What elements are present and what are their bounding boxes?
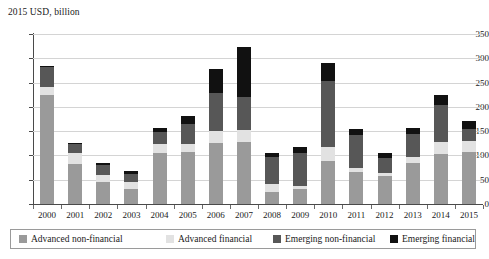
x-axis-tick-mark <box>314 205 315 209</box>
legend-label: Emerging non-financial <box>285 234 375 244</box>
bar-segment <box>378 153 392 158</box>
x-axis-tick-mark <box>371 205 372 209</box>
bar-segment <box>68 143 82 144</box>
plot-area <box>33 34 483 204</box>
legend-label: Emerging financial <box>402 234 475 244</box>
legend-item[interactable]: Emerging non-financial <box>273 234 375 244</box>
x-axis-tick-label: 2013 <box>404 210 422 220</box>
bar-segment <box>349 129 363 135</box>
legend-label: Advanced financial <box>178 234 252 244</box>
bar-segment <box>293 189 307 204</box>
bar-segment <box>378 158 392 174</box>
bar-segment <box>349 135 363 168</box>
bar-2013 <box>406 34 420 204</box>
x-axis-tick-mark <box>202 205 203 209</box>
bar-2007 <box>237 34 251 204</box>
bar-segment <box>181 152 195 204</box>
bar-2004 <box>153 34 167 204</box>
x-axis-tick-mark <box>286 205 287 209</box>
bar-segment <box>124 174 138 182</box>
x-axis-tick-mark <box>427 205 428 209</box>
bar-segment <box>406 128 420 134</box>
bar-segment <box>209 69 223 93</box>
bar-2012 <box>378 34 392 204</box>
bar-2010 <box>321 34 335 204</box>
x-axis-tick-mark <box>33 205 34 209</box>
bar-segment <box>265 192 279 204</box>
bar-segment <box>434 154 448 204</box>
bar-segment <box>68 144 82 153</box>
bar-segment <box>124 189 138 204</box>
x-axis-tick-mark <box>117 205 118 209</box>
legend-swatch-icon <box>166 235 174 243</box>
bar-2000 <box>40 34 54 204</box>
x-axis-tick-label: 2006 <box>207 210 225 220</box>
legend-item[interactable]: Advanced financial <box>166 234 252 244</box>
bar-segment <box>181 116 195 124</box>
bar-segment <box>434 105 448 142</box>
bar-segment <box>96 175 110 182</box>
bar-segment <box>293 153 307 186</box>
bar-segment <box>40 66 54 67</box>
bar-2006 <box>209 34 223 204</box>
bar-segment <box>378 173 392 176</box>
bar-segment <box>462 129 476 141</box>
legend-item[interactable]: Emerging financial <box>390 234 475 244</box>
bar-segment <box>321 63 335 81</box>
bar-segment <box>153 144 167 153</box>
bar-segment <box>124 182 138 189</box>
bar-segment <box>293 147 307 153</box>
bar-segment <box>96 163 110 165</box>
x-axis-tick-label: 2000 <box>38 210 56 220</box>
bar-segment <box>153 128 167 131</box>
bar-segment <box>349 172 363 204</box>
bar-segment <box>462 141 476 152</box>
bar-segment <box>406 134 420 157</box>
x-axis-tick-label: 2001 <box>66 210 84 220</box>
bar-2008 <box>265 34 279 204</box>
bar-segment <box>265 157 279 184</box>
bar-segment <box>321 147 335 162</box>
legend-item[interactable]: Advanced non-financial <box>19 234 123 244</box>
bar-segment <box>124 171 138 174</box>
x-axis-tick-label: 2012 <box>376 210 394 220</box>
bar-2005 <box>181 34 195 204</box>
x-axis-tick-mark <box>230 205 231 209</box>
x-axis-tick-label: 2003 <box>122 210 140 220</box>
bar-segment <box>209 131 223 143</box>
x-axis-tick-label: 2010 <box>319 210 337 220</box>
legend-swatch-icon <box>19 235 27 243</box>
bar-segment <box>237 97 251 130</box>
x-axis-tick-mark <box>146 205 147 209</box>
legend-swatch-icon <box>273 235 281 243</box>
bar-segment <box>434 95 448 105</box>
bar-segment <box>181 124 195 144</box>
x-axis-tick-mark <box>61 205 62 209</box>
bar-segment <box>40 87 54 94</box>
bar-segment <box>153 132 167 145</box>
legend-swatch-icon <box>390 235 398 243</box>
x-axis-tick-mark <box>342 205 343 209</box>
x-axis-tick-label: 2008 <box>263 210 281 220</box>
x-axis-tick-mark <box>455 205 456 209</box>
bar-segment <box>153 153 167 204</box>
bar-segment <box>181 144 195 152</box>
legend-label: Advanced non-financial <box>31 234 123 244</box>
bar-segment <box>321 161 335 204</box>
bar-segment <box>209 93 223 131</box>
bar-segment <box>265 184 279 192</box>
bar-segment <box>406 157 420 162</box>
bar-2001 <box>68 34 82 204</box>
bar-segment <box>40 95 54 204</box>
bar-segment <box>462 121 476 129</box>
x-axis-tick-mark <box>399 205 400 209</box>
y-axis-title: 2015 USD, billion <box>8 7 80 17</box>
x-axis-tick-label: 2007 <box>235 210 253 220</box>
bar-2002 <box>96 34 110 204</box>
x-axis-tick-mark <box>258 205 259 209</box>
x-axis-tick-label: 2004 <box>151 210 169 220</box>
bar-segment <box>434 142 448 154</box>
x-axis-tick-label: 2005 <box>179 210 197 220</box>
bar-segment <box>96 182 110 204</box>
bar-2009 <box>293 34 307 204</box>
